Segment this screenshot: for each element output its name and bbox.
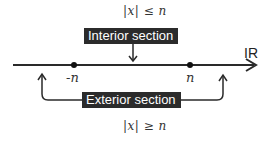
axis-label-reals: IR xyxy=(244,45,258,61)
interior-condition: |x| ≤ n xyxy=(123,4,167,18)
point-pos-n xyxy=(187,62,193,68)
exterior-condition: |x| ≥ n xyxy=(123,119,167,133)
tick-label-neg-n: -n xyxy=(66,70,79,85)
point-neg-n xyxy=(71,62,77,68)
tick-label-pos-n: n xyxy=(186,70,194,85)
number-line-diagram: |x| ≤ n Interior section IR -n n Exterio… xyxy=(0,0,275,142)
interior-section-label: Interior section xyxy=(84,28,178,44)
exterior-section-label: Exterior section xyxy=(82,92,181,108)
